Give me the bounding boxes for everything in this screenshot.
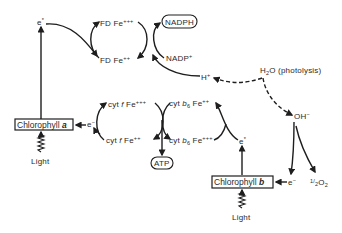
e-star-b-label: e* xyxy=(239,136,247,146)
chlorophyll-a-label: Chlorophyll a xyxy=(17,120,67,130)
atp-label: ATP xyxy=(154,159,170,168)
e-minus-a-label: e− xyxy=(87,119,95,129)
arrow-fd-left-arc xyxy=(91,22,99,58)
light-squiggle-a-icon xyxy=(38,135,44,152)
arrow-cytb6-right-lower xyxy=(214,124,226,140)
light-a-label: Light xyxy=(31,157,50,166)
nadph-label: NADPH xyxy=(165,18,194,27)
arrow-e-star-to-fd xyxy=(46,24,97,56)
nadp-label: NADP+ xyxy=(166,53,192,63)
oh-minus-label: OH− xyxy=(294,111,310,121)
arrow-oh-to-e-minus-b xyxy=(291,122,294,174)
cytb6-fe2-label: cyt b6 Fe++ xyxy=(169,98,209,109)
light-b-label: Light xyxy=(232,213,251,222)
photosynthesis-diagram: e* Chlorophyll a Light e− FD Fe+++ FD Fe… xyxy=(0,0,342,233)
arrow-h2o-to-oh-minus xyxy=(263,78,292,115)
e-minus-b-label: e− xyxy=(288,177,296,187)
arrow-nadp-to-nadph xyxy=(154,23,164,58)
half-o2-label: 1/2O2 xyxy=(310,178,328,188)
cytf-fe3-label: cyt f Fe+++ xyxy=(108,99,146,109)
cytb6-fe3-label: cyt b6 Fe+++ xyxy=(169,135,213,146)
arrow-e-star-b-to-cytb6 xyxy=(216,103,238,140)
h2o-label: H2O (photolysis) xyxy=(260,66,322,76)
light-squiggle-b-icon xyxy=(239,193,245,208)
fd-fe3-label: FD Fe+++ xyxy=(100,18,133,28)
cytf-fe2-label: cyt f Fe++ xyxy=(106,135,141,145)
e-star-a-label: e* xyxy=(37,17,45,27)
arrow-cytf-left-arc xyxy=(97,103,106,140)
chlorophyll-b-label: Chlorophyll b xyxy=(214,177,264,187)
h-plus-label: H+ xyxy=(201,72,210,82)
fd-fe2-label: FD Fe++ xyxy=(100,55,130,65)
arrow-fd-right-arc xyxy=(138,22,147,58)
arrow-oh-to-half-o2 xyxy=(296,126,315,172)
arrow-h2o-to-h-plus xyxy=(214,78,262,83)
